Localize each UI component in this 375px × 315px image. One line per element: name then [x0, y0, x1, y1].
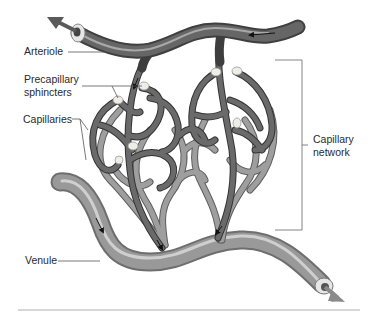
- label-precapillary-line1: Precapillary: [24, 73, 79, 86]
- capillaries-leader-branch-b: [80, 119, 86, 160]
- label-arteriole: Arteriole: [24, 45, 63, 58]
- capillary-network-bracket: [275, 60, 308, 230]
- precapillary-leader-branch: [112, 86, 118, 98]
- label-precapillary-line2: sphincters: [24, 86, 79, 99]
- label-capillaries: Capillaries: [23, 113, 72, 126]
- arteriole-vessel: [47, 17, 298, 68]
- label-capillary-network-line1: Capillary: [313, 133, 354, 146]
- label-capillary-network: Capillary network: [313, 133, 354, 158]
- label-capillary-network-line2: network: [313, 146, 354, 159]
- label-venule: Venule: [25, 254, 57, 267]
- label-precapillary-sphincters: Precapillary sphincters: [24, 73, 79, 98]
